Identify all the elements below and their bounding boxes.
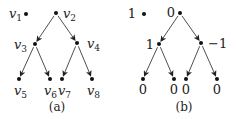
edge-b4-b7 xyxy=(187,46,199,76)
node-v2 xyxy=(54,11,58,15)
node-v6 xyxy=(48,77,52,81)
node-label-b1: 1 xyxy=(128,6,136,21)
node-b6 xyxy=(172,77,176,81)
node-b7 xyxy=(184,77,188,81)
node-v1 xyxy=(24,12,28,16)
node-label-v8: v8 xyxy=(87,83,100,100)
node-label-v3: v3 xyxy=(14,37,27,54)
node-label-v4: v4 xyxy=(87,36,100,53)
caption-a: (a) xyxy=(49,100,66,114)
node-b5 xyxy=(141,77,145,81)
node-v5 xyxy=(17,77,21,81)
node-label-v6: v6 xyxy=(44,83,57,100)
edge-v3-v6 xyxy=(36,47,48,76)
node-b4 xyxy=(199,41,203,45)
edge-b3-b6 xyxy=(160,47,172,76)
node-v8 xyxy=(90,77,94,81)
node-b3 xyxy=(157,42,161,46)
caption-b: (b) xyxy=(175,100,192,114)
tree-diagrams: v1v2v3v4v5v6v7v8101−10000 (a) (b) xyxy=(0,0,237,119)
edge-v4-v7 xyxy=(63,46,75,76)
node-label-b3: 1 xyxy=(146,37,154,52)
node-v7 xyxy=(60,77,64,81)
node-label-v5: v5 xyxy=(14,83,27,100)
node-v3 xyxy=(33,42,37,46)
node-label-v2: v2 xyxy=(63,6,76,23)
node-label-b5: 0 xyxy=(139,82,147,97)
node-b8 xyxy=(215,77,219,81)
node-label-b6: 0 xyxy=(170,82,178,97)
node-label-b7: 0 xyxy=(182,82,190,97)
node-v4 xyxy=(75,41,79,45)
node-label-v7: v7 xyxy=(58,83,71,100)
node-label-b8: 0 xyxy=(213,82,221,97)
edge-v2-v3 xyxy=(37,16,54,41)
node-label-v1: v1 xyxy=(9,6,22,23)
node-b1 xyxy=(142,12,146,16)
node-label-b2: 0 xyxy=(167,5,175,20)
edge-b2-b4 xyxy=(182,16,199,40)
node-label-b4: −1 xyxy=(208,36,227,51)
node-b2 xyxy=(178,11,182,15)
